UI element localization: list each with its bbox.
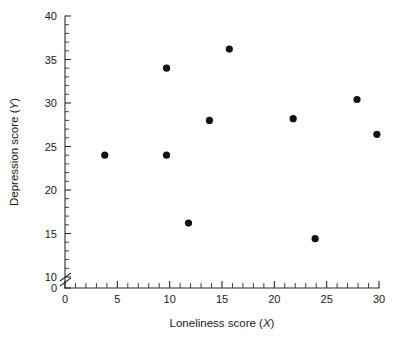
data-point bbox=[290, 115, 297, 122]
y-axis-title: Depression score (Y) bbox=[8, 98, 20, 206]
y-tick-label: 25 bbox=[45, 141, 57, 153]
y-tick-label: 0 bbox=[51, 282, 57, 294]
x-tick-label: 10 bbox=[164, 293, 176, 305]
y-axis-tick-labels: 010152025303540 bbox=[45, 10, 57, 294]
data-point bbox=[312, 235, 319, 242]
data-point bbox=[101, 152, 108, 159]
x-tick-label: 25 bbox=[321, 293, 333, 305]
x-axis-tick-labels: 051015202530 bbox=[62, 293, 385, 305]
x-tick-label: 0 bbox=[62, 293, 68, 305]
x-tick-label: 20 bbox=[268, 293, 280, 305]
data-point bbox=[226, 45, 233, 52]
data-point bbox=[206, 117, 213, 124]
x-axis-title: Loneliness score (X) bbox=[170, 317, 275, 329]
data-point bbox=[163, 65, 170, 72]
y-tick-label: 15 bbox=[45, 228, 57, 240]
data-point bbox=[163, 152, 170, 159]
y-tick-label: 40 bbox=[45, 10, 57, 22]
plot-canvas: 010152025303540 051015202530 Loneliness … bbox=[0, 0, 402, 340]
data-point bbox=[373, 131, 380, 138]
x-tick-label: 15 bbox=[216, 293, 228, 305]
y-tick-label: 20 bbox=[45, 184, 57, 196]
x-tick-label: 5 bbox=[114, 293, 120, 305]
x-tick-label: 30 bbox=[373, 293, 385, 305]
x-axis-ticks bbox=[65, 281, 379, 288]
data-point-series bbox=[101, 45, 380, 242]
y-tick-label: 30 bbox=[45, 97, 57, 109]
data-point bbox=[185, 219, 192, 226]
y-tick-label: 35 bbox=[45, 54, 57, 66]
y-axis-ticks bbox=[65, 16, 71, 288]
scatter-plot-figure: 010152025303540 051015202530 Loneliness … bbox=[0, 0, 402, 340]
y-tick-label: 10 bbox=[45, 271, 57, 283]
data-point bbox=[353, 96, 360, 103]
